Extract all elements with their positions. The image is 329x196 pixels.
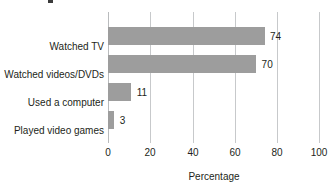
x-axis-title: Percentage [108, 171, 320, 182]
cropped-title-remnant [48, 0, 53, 3]
x-tick-label-40: 40 [187, 147, 198, 158]
category-label-watched-tv: Watched TV [0, 41, 104, 52]
category-label-played-video-games: Played video games [0, 125, 104, 136]
bar-value-label: 3 [120, 115, 126, 126]
x-tick-label-20: 20 [144, 147, 155, 158]
value-axis-tick-labels: 0 20 40 60 80 100 [108, 147, 320, 163]
bar-watched-videos-dvds[interactable] [108, 55, 256, 73]
category-axis-labels: Watched TV Watched videos/DVDs Used a co… [0, 12, 104, 143]
x-tick-label-100: 100 [311, 147, 328, 158]
category-label-used-a-computer: Used a computer [0, 97, 104, 108]
plot-area: 74 70 11 3 [108, 12, 320, 143]
category-label-watched-videos-dvds: Watched videos/DVDs [0, 69, 104, 80]
x-tick-label-60: 60 [229, 147, 240, 158]
bar-chart-figure: Watched TV Watched videos/DVDs Used a co… [0, 0, 329, 196]
bar-value-label: 70 [262, 59, 273, 70]
bar-value-label: 74 [270, 31, 281, 42]
bar-watched-tv[interactable] [108, 27, 265, 45]
bar-played-video-games[interactable] [108, 111, 114, 129]
gridline-100 [319, 12, 320, 143]
bar-used-a-computer[interactable] [108, 83, 131, 101]
bar-value-label: 11 [137, 87, 147, 98]
x-tick-label-80: 80 [271, 147, 282, 158]
x-tick-label-0: 0 [105, 147, 111, 158]
